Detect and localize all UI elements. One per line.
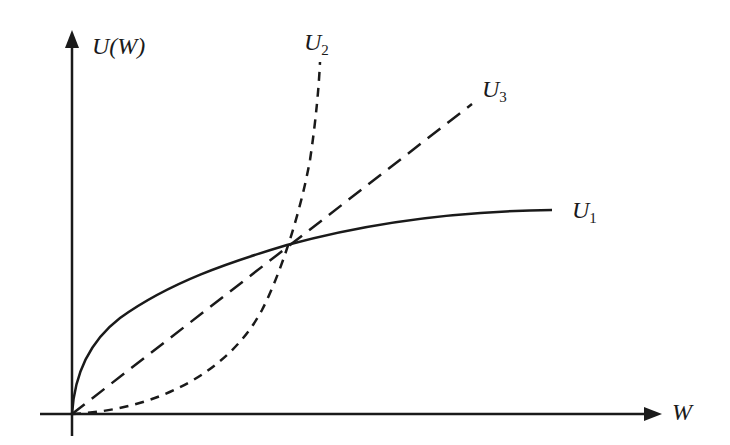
u2-base: U	[304, 29, 321, 55]
curve-u2	[72, 62, 320, 414]
y-axis-label-text: U(W)	[92, 33, 145, 59]
u3-base: U	[482, 76, 499, 102]
x-axis-label: W	[672, 400, 692, 424]
curve-u3	[72, 104, 472, 414]
u1-base: U	[572, 197, 589, 223]
diagram-canvas	[0, 0, 730, 445]
y-axis-label: U(W)	[92, 34, 145, 58]
u2-sub: 2	[321, 42, 329, 58]
curve-u3-label: U3	[482, 77, 507, 105]
curve-u2-label: U2	[304, 30, 329, 58]
y-axis-arrow-icon	[65, 30, 79, 48]
curve-u1-label: U1	[572, 198, 597, 226]
u1-sub: 1	[589, 210, 597, 226]
u3-sub: 3	[499, 89, 507, 105]
curve-u1	[72, 210, 552, 414]
utility-diagram: U(W) W U2 U3 U1	[0, 0, 730, 445]
x-axis-arrow-icon	[644, 407, 662, 421]
x-axis-label-text: W	[672, 399, 692, 425]
